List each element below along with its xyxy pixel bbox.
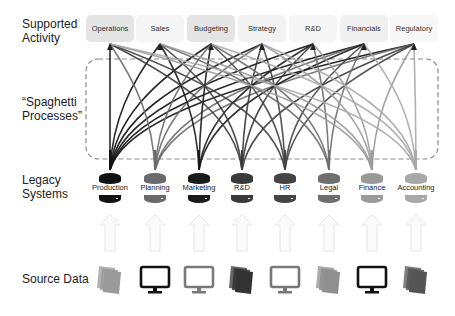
documents-icon — [226, 263, 258, 297]
up-arrow-icon — [319, 215, 339, 251]
monitor-icon — [356, 263, 388, 297]
documents-icon — [313, 263, 345, 297]
up-arrow-icon — [232, 215, 252, 251]
monitor-icon — [139, 263, 171, 297]
up-arrow-icon — [406, 215, 426, 251]
up-arrow-icon — [362, 215, 382, 251]
up-arrow-icon — [189, 215, 209, 251]
up-arrow-icon — [275, 215, 295, 251]
up-arrow-icon — [145, 215, 165, 251]
documents-icon — [400, 263, 432, 297]
monitor-icon — [269, 263, 301, 297]
monitor-icon — [183, 263, 215, 297]
documents-icon — [94, 263, 126, 297]
up-arrow-icon — [100, 215, 120, 251]
